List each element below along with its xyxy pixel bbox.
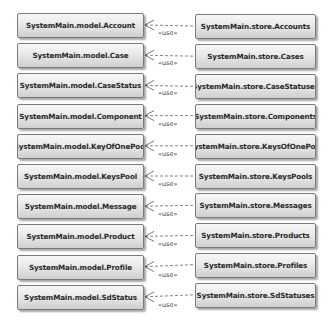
model-class-box[interactable]: SystemMain.model.CaseStatus	[17, 73, 144, 98]
dependency-line	[145, 55, 195, 56]
model-class-box[interactable]: SystemMain.model.Case	[17, 43, 144, 68]
stereotype-label: «use»	[158, 180, 177, 188]
store-class-box[interactable]: SystemMain.store.Cases	[195, 44, 316, 69]
store-class-box[interactable]: SystemMain.store.KeysPools	[195, 164, 316, 189]
dependency-line	[145, 295, 195, 297]
dependency-line	[145, 205, 195, 206]
model-class-box[interactable]: SystemMain.model.Message	[17, 194, 144, 219]
dependency-line	[145, 265, 195, 267]
dependency-line	[145, 25, 195, 26]
store-class-box[interactable]: SystemMain.store.SdStatuses	[195, 283, 316, 308]
dependency-line	[145, 235, 195, 236]
stereotype-label: «use»	[158, 120, 177, 128]
store-class-box[interactable]: SystemMain.store.Products	[195, 223, 316, 248]
stereotype-label: «use»	[158, 29, 177, 37]
stereotype-label: «use»	[158, 271, 177, 279]
store-class-box[interactable]: SystemMain.store.Profiles	[195, 253, 316, 278]
store-class-box[interactable]: SystemMain.store.Messages	[195, 193, 316, 218]
model-class-box[interactable]: SystemMain.model.Profile	[17, 255, 144, 280]
stereotype-label: «use»	[158, 89, 177, 97]
stereotype-label: «use»	[158, 301, 177, 309]
store-class-box[interactable]: SystemMain.store.Components	[195, 104, 316, 129]
stereotype-label: «use»	[158, 59, 177, 67]
model-class-box[interactable]: SystemMain.model.Component	[17, 104, 144, 129]
stereotype-label: «use»	[158, 240, 177, 248]
model-class-box[interactable]: SystemMain.model.KeyOfOnePool	[17, 134, 144, 159]
store-class-box[interactable]: SystemMain.store.CaseStatuses	[195, 74, 316, 99]
model-class-box[interactable]: SystemMain.model.SdStatus	[17, 285, 144, 310]
uml-diagram: SystemMain.model.AccountSystemMain.store…	[0, 0, 328, 321]
dependency-line	[145, 85, 195, 86]
store-class-box[interactable]: SystemMain.store.KeysOfOnePool	[195, 134, 316, 159]
stereotype-label: «use»	[158, 210, 177, 218]
model-class-box[interactable]: SystemMain.model.Product	[17, 224, 144, 249]
model-class-box[interactable]: SystemMain.model.KeysPool	[17, 164, 144, 189]
store-class-box[interactable]: SystemMain.store.Accounts	[195, 14, 316, 39]
stereotype-label: «use»	[158, 150, 177, 158]
model-class-box[interactable]: SystemMain.model.Account	[17, 13, 144, 38]
